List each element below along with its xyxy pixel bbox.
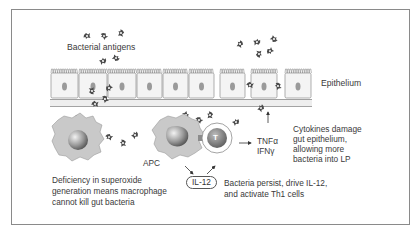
tnf-alpha-label: TNFα [257, 136, 278, 146]
microvilli [251, 69, 277, 73]
t-cell-label: T [213, 133, 218, 143]
bacterium-icon [207, 111, 214, 119]
bacterium-icon [265, 47, 274, 56]
caption-line: cannot kill gut bacteria [52, 197, 167, 208]
ifn-gamma-label: IFNγ [257, 146, 275, 156]
caption-line: Cytokines damage [293, 124, 362, 134]
arrow-il12-to-t [207, 166, 215, 174]
epithelium-layer [51, 69, 311, 98]
epithelial-cell [51, 69, 78, 98]
arrow-apc-to-il12 [185, 166, 193, 174]
caption-line: generation means macrophage [52, 186, 167, 197]
cell-nucleus [262, 83, 267, 91]
bacterium-icon [269, 34, 278, 43]
cytokines-caption: Cytokines damage gut epithelium, allowin… [293, 124, 362, 164]
bacterium-icon [99, 57, 108, 65]
apc-label: APC [143, 158, 160, 168]
cell-nucleus [62, 83, 67, 91]
microvilli [137, 69, 161, 73]
bacterium-icon [253, 38, 261, 45]
epithelial-cell [163, 69, 188, 98]
bacterium-icon [120, 139, 126, 146]
caption-line: bacteria into LP [293, 154, 362, 164]
bacterium-icon [130, 130, 139, 139]
epithelial-cell [108, 69, 137, 98]
bacterium-icon [84, 33, 91, 39]
caption-line: allowing more [293, 144, 362, 154]
epithelial-cell [189, 69, 214, 98]
bacterium-icon [104, 133, 113, 142]
cell-nucleus [230, 83, 235, 91]
cell-nucleus [296, 83, 301, 91]
bacteria-persist-caption: Bacteria persist, drive IL-12, and activ… [224, 178, 327, 200]
bacterium-icon [99, 31, 108, 40]
microvilli [108, 69, 137, 73]
bacterial-antigens-label: Bacterial antigens [67, 42, 135, 52]
apc-nucleus [166, 126, 188, 146]
bacterium-icon [111, 54, 120, 63]
microvilli [220, 69, 244, 73]
bacterium-icon [231, 118, 240, 127]
basement-membrane [50, 99, 312, 107]
il12-badge: IL-12 [186, 176, 217, 189]
macrophage [52, 113, 104, 161]
bacterium-icon [117, 29, 125, 37]
epithelium-label: Epithelium [321, 78, 361, 88]
cell-nucleus [147, 83, 152, 91]
cell-nucleus [120, 83, 125, 91]
microvilli [79, 69, 108, 73]
bacterium-icon [236, 40, 245, 49]
bacterium-icon [256, 50, 263, 58]
epithelial-cell [285, 69, 311, 98]
microvilli [285, 69, 311, 73]
epithelial-cell [137, 69, 162, 98]
caption-line: Deficiency in superoxide [52, 175, 167, 186]
epithelial-cell [251, 69, 277, 98]
macrophage-caption: Deficiency in superoxide generation mean… [52, 175, 167, 208]
caption-line: Bacteria persist, drive IL-12, [224, 178, 327, 189]
microvilli [189, 69, 213, 73]
cell-nucleus [173, 83, 178, 91]
microvilli [163, 69, 187, 73]
cell-nucleus [199, 83, 204, 91]
epithelial-cell [220, 69, 245, 98]
caption-line: and activate Th1 cells [224, 189, 327, 200]
microvilli [51, 69, 77, 73]
caption-line: gut epithelium, [293, 134, 362, 144]
macrophage-nucleus [68, 130, 88, 150]
